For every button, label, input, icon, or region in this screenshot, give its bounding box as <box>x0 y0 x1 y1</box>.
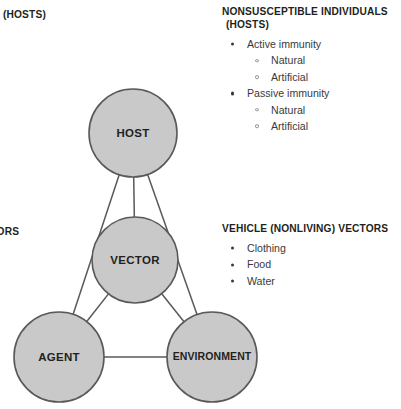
list-item-label: Clothing <box>247 242 286 254</box>
list-item-label: Passive immunity <box>247 87 329 99</box>
nonsusceptible-individuals-block: NONSUSCEPTIBLE INDIVIDUALS (HOSTS) Activ… <box>222 5 388 134</box>
list-item: Water <box>222 273 388 289</box>
vehicle-vectors-heading: VEHICLE (NONLIVING) VECTORS <box>222 222 388 235</box>
label-hosts-top-left: (HOSTS) <box>3 8 46 21</box>
figure-canvas: HOSTVECTORAGENTENVIRONMENT (HOSTS) VECTO… <box>0 0 401 409</box>
list-item-label: Artificial <box>271 71 308 83</box>
list-item: Artificial <box>222 69 388 85</box>
label-vectors-left-text: VECTORS <box>0 226 19 237</box>
nonsusceptible-heading-line2: (HOSTS) <box>222 18 388 31</box>
list-item: Active immunity <box>222 36 388 52</box>
nonsusceptible-heading: NONSUSCEPTIBLE INDIVIDUALS (HOSTS) <box>222 5 388 31</box>
list-item: Food <box>222 256 388 272</box>
list-item: Natural <box>222 52 388 68</box>
node-label-vector: VECTOR <box>110 254 160 266</box>
label-vectors-left: VECTORS <box>0 225 19 238</box>
node-label-agent: AGENT <box>38 351 80 363</box>
label-hosts-top-left-text: (HOSTS) <box>3 9 46 20</box>
node-circles-group: HOSTVECTORAGENTENVIRONMENT <box>14 89 257 402</box>
link-vector-agent <box>87 294 109 322</box>
list-item: Clothing <box>222 240 388 256</box>
hollow-bullet-icon <box>255 75 259 79</box>
filled-bullet-icon <box>231 247 234 250</box>
link-vector-environment <box>162 294 184 322</box>
nonsusceptible-heading-line1: NONSUSCEPTIBLE INDIVIDUALS <box>222 6 388 17</box>
vehicle-vectors-block: VEHICLE (NONLIVING) VECTORS ClothingFood… <box>222 222 388 289</box>
list-item-label: Natural <box>271 54 305 66</box>
filled-bullet-icon <box>231 279 234 282</box>
node-label-environment: ENVIRONMENT <box>173 350 252 362</box>
node-environment[interactable]: ENVIRONMENT <box>167 312 257 402</box>
hollow-bullet-icon <box>255 124 259 128</box>
list-item: Passive immunity <box>222 85 388 101</box>
list-item-label: Food <box>247 258 271 270</box>
list-item-label: Artificial <box>271 120 308 132</box>
list-item-label: Active immunity <box>247 38 321 50</box>
filled-bullet-icon <box>231 43 234 46</box>
list-item: Artificial <box>222 118 388 134</box>
filled-bullet-icon <box>231 263 234 266</box>
node-vector[interactable]: VECTOR <box>92 217 178 303</box>
hollow-bullet-icon <box>255 108 259 112</box>
hollow-bullet-icon <box>255 59 259 63</box>
node-agent[interactable]: AGENT <box>14 312 104 402</box>
list-item-label: Natural <box>271 104 305 116</box>
node-host[interactable]: HOST <box>89 89 177 177</box>
vehicle-vectors-list: ClothingFoodWater <box>222 240 388 289</box>
list-item: Natural <box>222 102 388 118</box>
nonsusceptible-list: Active immunityNaturalArtificialPassive … <box>222 36 388 134</box>
list-item-label: Water <box>247 275 275 287</box>
node-label-host: HOST <box>116 127 149 139</box>
vehicle-vectors-heading-text: VEHICLE (NONLIVING) VECTORS <box>222 223 388 234</box>
link-host-vector <box>134 177 135 217</box>
filled-bullet-icon <box>231 92 234 95</box>
